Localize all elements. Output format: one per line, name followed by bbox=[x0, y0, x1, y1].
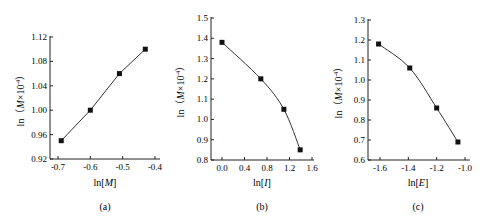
y-tick-label: 1.3 bbox=[354, 15, 366, 25]
y-tick-label: 1.2 bbox=[197, 74, 208, 84]
y-tick-label: 1.12 bbox=[31, 32, 47, 42]
panel-label: (c) bbox=[412, 201, 423, 213]
data-point-marker bbox=[143, 47, 148, 52]
x-tick-label: -1.6 bbox=[373, 163, 388, 173]
y-tick-label: 1.0 bbox=[354, 75, 366, 85]
data-point-marker bbox=[59, 138, 64, 143]
y-tick-label: 0.92 bbox=[31, 154, 47, 164]
x-tick-label: -1.4 bbox=[401, 163, 416, 173]
data-point-marker bbox=[455, 140, 460, 145]
panel-label: (a) bbox=[99, 201, 110, 213]
data-point-marker bbox=[220, 40, 225, 45]
x-tick-label: 1.2 bbox=[284, 163, 295, 173]
chart-figure: 0.920.961.001.041.081.12-0.7-0.6-0.5-0.4… bbox=[0, 0, 484, 219]
y-tick-label: 0.8 bbox=[354, 115, 366, 125]
data-line bbox=[379, 44, 458, 142]
chart-panel-a: 0.920.961.001.041.081.12-0.7-0.6-0.5-0.4… bbox=[15, 32, 163, 213]
x-tick-label: -1.2 bbox=[430, 163, 444, 173]
y-tick-label: 1.4 bbox=[197, 33, 209, 43]
panel-label: (b) bbox=[256, 201, 268, 213]
x-axis-label: ln[I] bbox=[253, 177, 271, 188]
x-axis-label: ln[M] bbox=[94, 177, 117, 188]
y-tick-label: 1.00 bbox=[31, 105, 47, 115]
x-tick-label: 0.0 bbox=[216, 163, 228, 173]
y-tick-label: 0.9 bbox=[197, 135, 209, 145]
x-axis-label: ln[E] bbox=[408, 177, 429, 188]
data-line bbox=[61, 49, 145, 141]
y-axis-label: ln（M×10-4） bbox=[333, 62, 344, 119]
x-tick-label: 1.6 bbox=[306, 163, 318, 173]
data-point-marker bbox=[407, 66, 412, 71]
y-axis-label: ln（M×10-4） bbox=[175, 61, 186, 118]
y-tick-label: 0.8 bbox=[197, 155, 209, 165]
data-point-marker bbox=[117, 71, 122, 76]
y-axis-label: ln（M×10-4） bbox=[15, 70, 26, 127]
x-tick-label: -0.7 bbox=[51, 162, 66, 172]
data-point-marker bbox=[281, 107, 286, 112]
y-tick-label: 1.04 bbox=[31, 81, 47, 91]
chart-panel-c: 0.60.70.80.91.01.11.21.3-1.6-1.4-1.2-1.0… bbox=[333, 15, 473, 213]
y-tick-label: 0.96 bbox=[31, 130, 47, 140]
y-tick-label: 1.2 bbox=[354, 35, 365, 45]
chart-panel-b: 0.80.91.01.11.21.31.41.50.00.40.81.21.6l… bbox=[175, 13, 318, 213]
x-tick-label: 0.4 bbox=[239, 163, 251, 173]
x-tick-label: -0.6 bbox=[83, 162, 98, 172]
x-tick-label: -0.4 bbox=[148, 162, 163, 172]
x-tick-label: -1.0 bbox=[458, 163, 473, 173]
y-tick-label: 1.5 bbox=[197, 13, 209, 23]
y-tick-label: 1.1 bbox=[354, 55, 365, 65]
y-tick-label: 0.9 bbox=[354, 95, 366, 105]
x-tick-label: 0.8 bbox=[261, 163, 273, 173]
y-tick-label: 1.08 bbox=[31, 56, 47, 66]
data-point-marker bbox=[434, 106, 439, 111]
y-tick-label: 0.6 bbox=[354, 155, 366, 165]
y-tick-label: 1.3 bbox=[197, 54, 209, 64]
data-point-marker bbox=[376, 42, 381, 47]
data-point-marker bbox=[258, 76, 263, 81]
y-tick-label: 1.0 bbox=[197, 114, 209, 124]
data-point-marker bbox=[298, 147, 303, 152]
y-tick-label: 1.1 bbox=[197, 94, 208, 104]
data-line bbox=[222, 42, 300, 150]
x-tick-label: -0.5 bbox=[116, 162, 131, 172]
data-point-marker bbox=[88, 108, 93, 113]
y-tick-label: 0.7 bbox=[354, 135, 366, 145]
